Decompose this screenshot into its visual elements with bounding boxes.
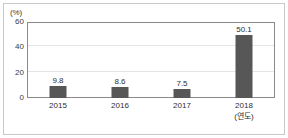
x-axis-tick-label: 2015 (27, 100, 89, 111)
x-axis-category-label: 2016 (89, 100, 151, 111)
x-axis-category-label: 2017 (151, 100, 213, 111)
bar-value-label: 50.1 (236, 25, 252, 34)
x-axis-category-label: 2015 (27, 100, 89, 111)
bar (112, 87, 129, 98)
bar-slot: 7.5 (151, 22, 213, 98)
y-axis-unit-label: (%) (10, 8, 22, 17)
y-axis-tick-label: 60 (2, 18, 24, 26)
bar-slot: 9.8 (27, 22, 89, 98)
bar-series: 9.88.67.550.1 (27, 22, 275, 98)
x-axis-category-label: 2018 (213, 100, 275, 111)
y-axis-tick-label: 0 (2, 94, 24, 102)
bar (174, 89, 191, 99)
x-axis-tick-label: 2018(연도) (213, 100, 275, 122)
y-axis-tick-label: 20 (2, 69, 24, 77)
x-axis-tick-label: 2017 (151, 100, 213, 111)
bar (50, 86, 67, 98)
bar-value-label: 9.8 (52, 76, 63, 85)
x-axis-tick-label: 2016 (89, 100, 151, 111)
y-axis-tick-label: 40 (2, 43, 24, 51)
bar (236, 35, 253, 98)
chart-figure: (%) 6040200 9.88.67.550.1 20152016201720… (0, 0, 288, 138)
bar-slot: 50.1 (213, 22, 275, 98)
x-axis-unit-label: (연도) (213, 111, 275, 122)
x-axis-tick-labels: 2015201620172018(연도) (27, 100, 275, 134)
bar-value-label: 7.5 (176, 79, 187, 88)
bar-value-label: 8.6 (114, 77, 125, 86)
bar-slot: 8.6 (89, 22, 151, 98)
